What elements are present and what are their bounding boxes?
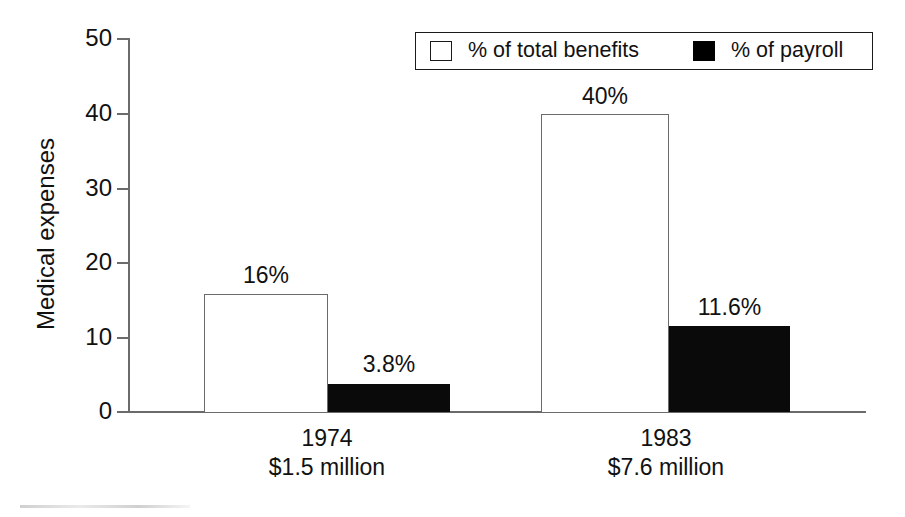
category-year-1983: 1983 xyxy=(546,424,786,453)
bar-1983-payroll xyxy=(669,326,790,412)
y-tick-0 xyxy=(117,411,129,413)
category-label-1983: 1983 $7.6 million xyxy=(546,424,786,483)
y-axis-line xyxy=(128,38,130,413)
bar-1974-payroll xyxy=(328,384,450,412)
bar-1983-total-benefits xyxy=(541,114,669,413)
y-tick-40 xyxy=(117,113,129,115)
bar-1974-total-benefits xyxy=(204,294,328,413)
legend-label-payroll: % of payroll xyxy=(731,40,843,62)
y-tick-50 xyxy=(117,38,129,40)
y-tick-10 xyxy=(117,337,129,339)
category-label-1974: 1974 $1.5 million xyxy=(207,424,447,483)
bar-value-1974-total-benefits: 16% xyxy=(204,264,328,287)
legend-label-total-benefits: % of total benefits xyxy=(468,40,639,62)
bar-value-1983-payroll: 11.6% xyxy=(664,296,795,319)
y-tick-30 xyxy=(117,188,129,190)
bar-chart: % of total benefits % of payroll 50 40 3… xyxy=(0,0,905,517)
chart-legend: % of total benefits % of payroll xyxy=(415,32,873,70)
legend-swatch-filled-icon xyxy=(693,41,715,61)
category-amount-1974: $1.5 million xyxy=(207,453,447,482)
scan-artifact xyxy=(20,505,190,508)
category-year-1974: 1974 xyxy=(207,424,447,453)
category-amount-1983: $7.6 million xyxy=(546,453,786,482)
y-axis-title: Medical expenses xyxy=(34,104,58,364)
legend-swatch-open-icon xyxy=(430,41,452,61)
y-tick-label-0: 0 xyxy=(48,399,112,423)
legend-item-payroll: % of payroll xyxy=(693,33,843,69)
legend-item-total-benefits: % of total benefits xyxy=(430,33,639,69)
y-tick-label-50: 50 xyxy=(48,26,112,50)
bar-value-1983-total-benefits: 40% xyxy=(541,85,669,108)
y-tick-20 xyxy=(117,262,129,264)
bar-value-1974-payroll: 3.8% xyxy=(328,353,450,376)
